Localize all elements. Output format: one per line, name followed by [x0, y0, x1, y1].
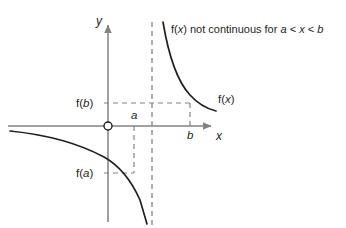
curve-right-branch: [163, 22, 216, 111]
label-y-axis: y: [96, 15, 102, 27]
tick-label-b: b: [187, 130, 193, 142]
label-f-of-a: f(a): [76, 168, 93, 180]
origin-marker: [104, 122, 112, 130]
annotation-not-continuous: f(x) not continuous for a < x < b: [171, 24, 323, 35]
label-x-axis: x: [216, 130, 222, 142]
function-graph-figure: f(b) f(a) f(x) y x a b f(x) not continuo…: [0, 0, 346, 228]
tick-label-a: a: [131, 110, 137, 122]
label-curve-f-of-x: f(x): [218, 94, 235, 106]
label-f-of-b: f(b): [76, 98, 93, 110]
